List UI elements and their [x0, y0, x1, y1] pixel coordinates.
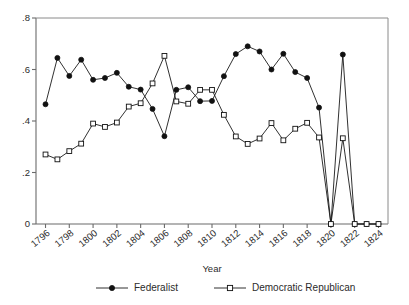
data-point-marker: [150, 81, 155, 86]
data-point-marker: [67, 73, 72, 78]
x-tick-label: 1818: [290, 227, 313, 249]
data-point-marker: [162, 134, 167, 139]
data-point-marker: [43, 102, 48, 107]
data-point-marker: [55, 55, 60, 60]
data-point-marker: [281, 51, 286, 56]
x-tick-label: 1816: [266, 227, 289, 249]
x-tick-label: 1802: [100, 227, 123, 249]
legend-label: Federalist: [134, 282, 178, 293]
line-chart: 0.2.4.6.81796179818001802180418061808181…: [0, 0, 409, 305]
data-point-marker: [305, 75, 310, 80]
data-point-marker: [186, 101, 191, 106]
x-tick-label: 1814: [243, 227, 266, 249]
data-point-marker: [221, 74, 226, 79]
data-point-marker: [293, 70, 298, 75]
series-1: [43, 44, 381, 227]
legend-marker: [227, 285, 232, 290]
data-point-marker: [114, 120, 119, 125]
data-point-marker: [340, 136, 345, 141]
data-point-marker: [55, 157, 60, 162]
data-point-marker: [186, 85, 191, 90]
data-point-marker: [269, 67, 274, 72]
data-point-marker: [269, 121, 274, 126]
legend-marker: [109, 285, 114, 290]
data-point-marker: [79, 141, 84, 146]
y-tick-label: .2: [22, 167, 30, 178]
data-point-marker: [138, 101, 143, 106]
data-point-marker: [126, 104, 131, 109]
data-point-marker: [293, 126, 298, 131]
data-point-marker: [79, 57, 84, 62]
x-tick-label: 1796: [29, 227, 52, 249]
x-tick-label: 1810: [195, 227, 218, 249]
x-tick-label: 1800: [76, 227, 99, 249]
data-point-marker: [364, 222, 369, 227]
y-tick-label: .6: [22, 64, 30, 75]
y-tick-label: .4: [22, 115, 30, 126]
data-point-marker: [114, 70, 119, 75]
data-point-marker: [91, 77, 96, 82]
x-tick-label: 1812: [219, 227, 242, 249]
data-point-marker: [221, 112, 226, 117]
data-point-marker: [233, 134, 238, 139]
data-point-marker: [245, 44, 250, 49]
chart-container: 0.2.4.6.81796179818001802180418061808181…: [0, 0, 409, 305]
data-point-marker: [352, 222, 357, 227]
data-point-marker: [174, 99, 179, 104]
x-tick-label: 1808: [171, 227, 194, 249]
data-point-marker: [103, 125, 108, 130]
data-point-marker: [376, 222, 381, 227]
data-point-marker: [198, 87, 203, 92]
data-point-marker: [340, 52, 345, 57]
data-point-marker: [150, 106, 155, 111]
x-tick-label: 1806: [147, 227, 170, 249]
data-point-marker: [233, 52, 238, 57]
x-tick-label: 1820: [314, 227, 337, 249]
x-tick-label: 1804: [124, 227, 147, 249]
data-point-marker: [210, 87, 215, 92]
series-line: [46, 46, 379, 224]
data-point-marker: [91, 121, 96, 126]
data-point-marker: [198, 99, 203, 104]
x-tick-label: 1822: [338, 227, 361, 249]
data-point-marker: [162, 53, 167, 58]
data-point-marker: [257, 136, 262, 141]
data-point-marker: [329, 222, 334, 227]
legend-item-2[interactable]: Democratic Republican: [214, 282, 355, 293]
data-point-marker: [43, 152, 48, 157]
x-tick-label: 1798: [52, 227, 75, 249]
chart-legend: FederalistDemocratic Republican: [96, 282, 355, 293]
data-point-marker: [245, 142, 250, 147]
x-tick-label: 1824: [362, 227, 385, 249]
y-tick-label: .8: [22, 12, 30, 23]
data-point-marker: [317, 105, 322, 110]
data-point-marker: [138, 87, 143, 92]
data-point-marker: [126, 84, 131, 89]
legend-label: Democratic Republican: [252, 282, 355, 293]
x-axis-title: Year: [202, 263, 221, 274]
data-point-marker: [317, 135, 322, 140]
data-point-marker: [174, 87, 179, 92]
data-point-marker: [281, 138, 286, 143]
data-point-marker: [305, 120, 310, 125]
legend-item-1[interactable]: Federalist: [96, 282, 178, 293]
y-tick-label: 0: [25, 218, 30, 229]
data-point-marker: [257, 49, 262, 54]
data-point-marker: [210, 98, 215, 103]
data-point-marker: [102, 75, 107, 80]
data-point-marker: [67, 149, 72, 154]
